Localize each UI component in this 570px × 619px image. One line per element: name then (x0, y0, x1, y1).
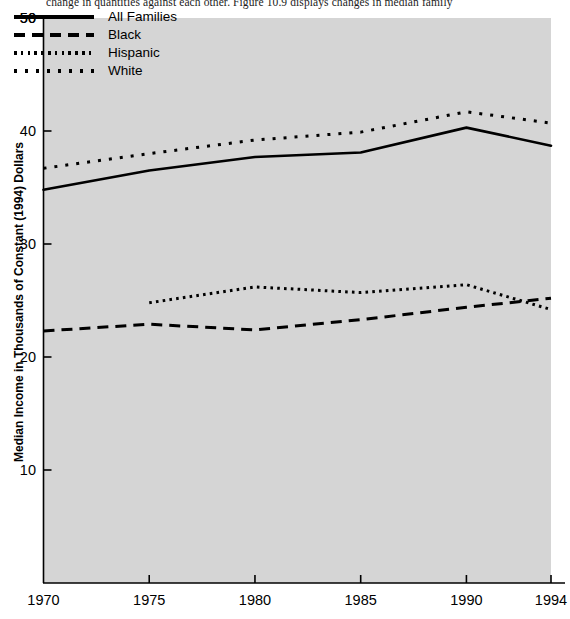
line-sample-solid (14, 15, 94, 19)
series-line-white (44, 112, 552, 168)
y-tick-label: 40 (2, 124, 36, 138)
series-line-black (44, 298, 552, 331)
y-axis-title: Median Income in Thousands of Constant (… (12, 137, 26, 467)
x-tick-label: 1975 (119, 593, 179, 607)
legend-item: Hispanic (14, 44, 254, 62)
line-sample-dashed (14, 33, 94, 37)
line-sample-dotted-wide (14, 69, 94, 73)
legend-item: White (14, 62, 254, 80)
line-sample-dotted-fine (14, 51, 94, 55)
x-axis-ticks (149, 575, 551, 583)
x-tick-label: 1985 (331, 593, 391, 607)
legend-swatch-white (14, 64, 94, 78)
legend-label: White (108, 64, 143, 78)
x-tick-label: 1970 (14, 593, 74, 607)
y-axis-ticks (44, 18, 52, 470)
legend-swatch-hispanic (14, 46, 94, 60)
legend-label: Hispanic (108, 46, 160, 60)
legend-item: Black (14, 26, 254, 44)
legend-label: Black (108, 28, 141, 42)
x-tick-label: 1994 (521, 593, 570, 607)
axes (43, 18, 565, 583)
legend-swatch-black (14, 28, 94, 42)
legend-swatch-all-families (14, 10, 94, 24)
legend-item: All Families (14, 8, 254, 26)
x-tick-label: 1980 (225, 593, 285, 607)
data-series (44, 112, 552, 331)
x-tick-label: 1990 (436, 593, 496, 607)
series-line-hispanic (149, 285, 551, 310)
chart-legend: All Families Black Hispanic White (14, 8, 254, 80)
chart-canvas (0, 0, 570, 619)
legend-label: All Families (108, 10, 177, 24)
figure-page: change in quantities against each other.… (0, 0, 570, 619)
